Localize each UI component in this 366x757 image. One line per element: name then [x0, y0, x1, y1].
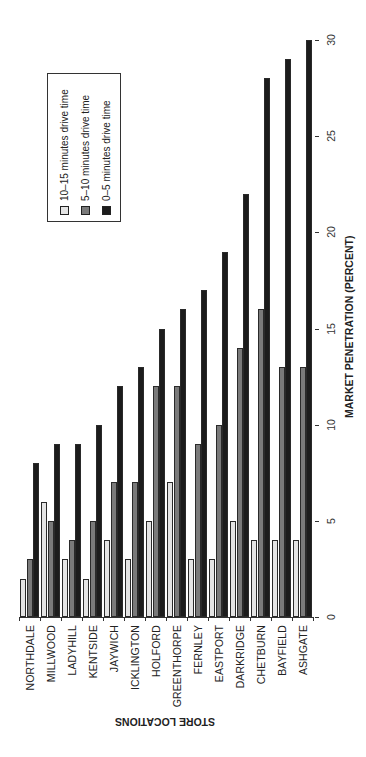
value-tick-label: 25	[325, 127, 337, 145]
category-label: ICKLINGTON	[129, 625, 141, 725]
category-tick	[124, 617, 125, 621]
category-tick	[82, 617, 83, 621]
category-tick	[40, 617, 41, 621]
legend-label: 10–15 minutes drive time	[59, 89, 70, 201]
bar-holford-0-5	[159, 329, 165, 618]
bar-millwood-0-5	[54, 444, 60, 617]
market-penetration-chart: 051015202530 NORTHDALEMILLWOODLADYHILLKE…	[0, 0, 366, 757]
category-label: KENTSIDE	[87, 625, 99, 725]
category-tick	[19, 617, 20, 621]
category-label: DARKRIDGE	[234, 625, 246, 725]
value-tick	[315, 232, 319, 233]
bar-fernley-0-5	[201, 290, 207, 617]
bar-kentside-0-5	[96, 425, 102, 617]
value-tick-label: 20	[325, 223, 337, 241]
value-tick-label: 10	[325, 416, 337, 434]
category-label: CHETBURN	[255, 625, 267, 725]
category-label: NORTHDALE	[24, 625, 36, 725]
value-tick-label: 0	[325, 608, 337, 626]
category-tick	[166, 617, 167, 621]
category-tick	[250, 617, 251, 621]
value-tick-label: 30	[325, 31, 337, 49]
bar-eastport-0-5	[222, 252, 228, 617]
category-tick	[208, 617, 209, 621]
legend-item-5-10: 5–10 minutes drive time	[75, 74, 95, 223]
value-tick	[315, 521, 319, 522]
legend-swatch-medium	[81, 206, 90, 215]
bar-darkridge-0-5	[243, 194, 249, 617]
category-tick	[292, 617, 293, 621]
bar-icklington-0-5	[138, 367, 144, 617]
value-tick-label: 5	[325, 512, 337, 530]
legend-swatch-light	[60, 206, 69, 215]
legend-label: 0–5 minutes drive time	[101, 100, 112, 201]
category-tick	[145, 617, 146, 621]
bar-chetburn-0-5	[264, 78, 270, 617]
legend-label: 5–10 minutes drive time	[80, 95, 91, 201]
category-label: FERNLEY	[192, 625, 204, 725]
bar-northdale-0-5	[33, 463, 39, 617]
category-label: MILLWOOD	[45, 625, 57, 725]
category-tick	[103, 617, 104, 621]
bar-ladyhill-0-5	[75, 444, 81, 617]
bar-bayfield-0-5	[285, 59, 291, 617]
legend-item-10-15: 10–15 minutes drive time	[54, 74, 74, 223]
legend-item-0-5: 0–5 minutes drive time	[96, 74, 116, 223]
category-tick	[187, 617, 188, 621]
category-label: ASHGATE	[297, 625, 309, 725]
category-tick	[229, 617, 230, 621]
category-tick	[61, 617, 62, 621]
category-label: GREENTHORPE	[171, 625, 183, 725]
category-label: BAYFIELD	[276, 625, 288, 725]
bar-greenthorpe-0-5	[180, 309, 186, 617]
category-label: JAYWICH	[108, 625, 120, 725]
category-label: HOLFORD	[150, 625, 162, 725]
value-axis-title: MARKET PENETRATION (PERCENT)	[343, 248, 355, 418]
legend: 10–15 minutes drive time 5–10 minutes dr…	[47, 73, 121, 222]
value-tick	[315, 136, 319, 137]
category-axis-title: STORE LOCATIONS	[110, 716, 220, 728]
bar-jaywich-0-5	[117, 386, 123, 617]
legend-swatch-dark	[102, 206, 111, 215]
category-tick	[271, 617, 272, 621]
value-tick-label: 15	[325, 320, 337, 338]
category-label: LADYHILL	[66, 625, 78, 725]
value-tick	[315, 329, 319, 330]
bar-ashgate-0-5	[306, 40, 312, 617]
category-tick	[313, 617, 314, 621]
category-label: EASTPORT	[213, 625, 225, 725]
value-tick	[315, 425, 319, 426]
value-tick	[315, 617, 319, 618]
value-tick	[315, 40, 319, 41]
